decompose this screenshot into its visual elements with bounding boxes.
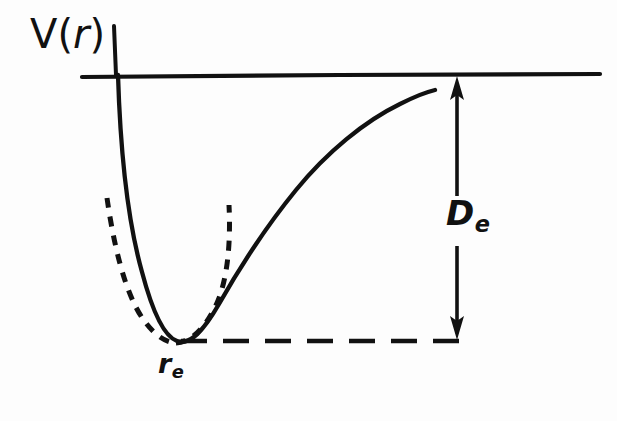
- y-axis-label-open-paren: (: [57, 11, 73, 57]
- figure-canvas: [0, 0, 617, 421]
- vertical-axis-line: [114, 26, 116, 75]
- dissociation-energy-base: D: [446, 193, 474, 233]
- equilibrium-distance-base: r: [158, 348, 171, 379]
- equilibrium-distance-label: re: [158, 350, 184, 381]
- morse-potential-curve: [118, 75, 435, 342]
- dissociation-energy-label: De: [446, 196, 490, 235]
- morse-potential-figure: V(r) re De: [0, 0, 617, 421]
- harmonic-approximation-right-curve: [176, 205, 230, 343]
- y-axis-label: V(r): [30, 14, 105, 54]
- dissociation-asymptote-line: [82, 74, 600, 77]
- equilibrium-distance-subscript: e: [172, 361, 184, 382]
- y-axis-label-v: V: [30, 11, 57, 57]
- y-axis-label-r: r: [73, 11, 89, 57]
- dissociation-energy-subscript: e: [475, 211, 490, 237]
- y-axis-label-close-paren: ): [89, 11, 105, 57]
